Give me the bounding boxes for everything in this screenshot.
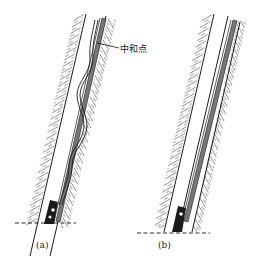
- panel-b-wellbore: [137, 14, 246, 233]
- bit-assembly-b: [172, 206, 186, 232]
- panel-a-caption: (a): [36, 240, 48, 250]
- neutral-point-label: 中和点: [120, 42, 147, 55]
- casing-b: [184, 20, 237, 222]
- panel-a-wellbore: [15, 14, 119, 256]
- panel-b-caption: (b): [158, 240, 171, 250]
- diagram-canvas: [0, 0, 257, 263]
